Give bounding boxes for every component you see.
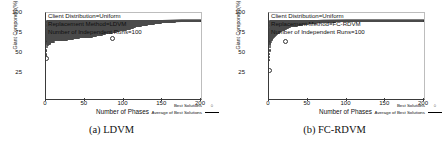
figure-container: Giant Component(%) 100 75 50 25 Client D… xyxy=(0,0,446,149)
legend-ldvm: Best Solutions ○ Average of Best Solutio… xyxy=(133,102,219,116)
legend-item-best-solutions: Best Solutions ○ xyxy=(356,102,442,109)
x-tick-label-100: 100 xyxy=(334,100,358,106)
line-marker-icon xyxy=(205,112,219,114)
circle-marker-icon: ○ xyxy=(205,102,219,109)
legend-item-average: Average of Best Solutions xyxy=(133,109,219,116)
legend-label-best-solutions: Best Solutions xyxy=(174,103,202,108)
legend-item-best-solutions: Best Solutions ○ xyxy=(133,102,219,109)
legend-label-average: Average of Best Solutions xyxy=(152,110,202,115)
legend-label-average: Average of Best Solutions xyxy=(375,110,425,115)
legend-item-average: Average of Best Solutions xyxy=(356,109,442,116)
annotation-block-fcrdvm: Client Distribution=Uniform Replacement … xyxy=(271,12,421,37)
annotation-independent-runs: Number of Independent Runs=100 xyxy=(48,28,198,36)
y-tick-label-25: 25 xyxy=(215,69,245,75)
y-tick-label-100: 100 xyxy=(0,9,22,15)
y-tick-label-75: 75 xyxy=(0,29,22,35)
legend-fcrdvm: Best Solutions ○ Average of Best Solutio… xyxy=(356,102,442,116)
best-solution-point xyxy=(283,39,288,44)
x-tick-label-50: 50 xyxy=(72,100,96,106)
annotation-client-distribution: Client Distribution=Uniform xyxy=(48,12,198,20)
x-tick-label-50: 50 xyxy=(295,100,319,106)
x-tick-label-0: 0 xyxy=(33,100,57,106)
panel-ldvm: Giant Component(%) 100 75 50 25 Client D… xyxy=(0,0,223,149)
y-tick-label-25: 25 xyxy=(0,69,22,75)
annotation-independent-runs: Number of Independent Runs=100 xyxy=(271,28,421,36)
annotation-replacement-method: Replacement Method=FC-RDVM xyxy=(271,20,421,28)
legend-label-best-solutions: Best Solutions xyxy=(397,103,425,108)
line-marker-icon xyxy=(428,112,442,114)
y-tick-label-50: 50 xyxy=(215,49,245,55)
annotation-client-distribution: Client Distribution=Uniform xyxy=(271,12,421,20)
annotation-block-ldvm: Client Distribution=Uniform Replacement … xyxy=(48,12,198,37)
x-tick-label-0: 0 xyxy=(256,100,280,106)
plot-area-ldvm: Giant Component(%) 100 75 50 25 Client D… xyxy=(0,0,223,122)
y-tick-label-100: 100 xyxy=(215,9,245,15)
best-solution-streak xyxy=(269,49,271,51)
x-tick-label-100: 100 xyxy=(111,100,135,106)
circle-marker-icon: ○ xyxy=(428,102,442,109)
panel-fcrdvm: Giant Component(%) 100 75 50 25 Client D… xyxy=(223,0,446,149)
panel-caption-b: (b) FC-RDVM xyxy=(223,124,446,135)
y-tick-label-50: 50 xyxy=(0,49,22,55)
y-tick-label-75: 75 xyxy=(215,29,245,35)
panel-caption-a: (a) LDVM xyxy=(0,124,223,135)
plot-area-fcrdvm: Giant Component(%) 100 75 50 25 Client D… xyxy=(223,0,446,122)
annotation-replacement-method: Replacement Method=LDVM xyxy=(48,20,198,28)
